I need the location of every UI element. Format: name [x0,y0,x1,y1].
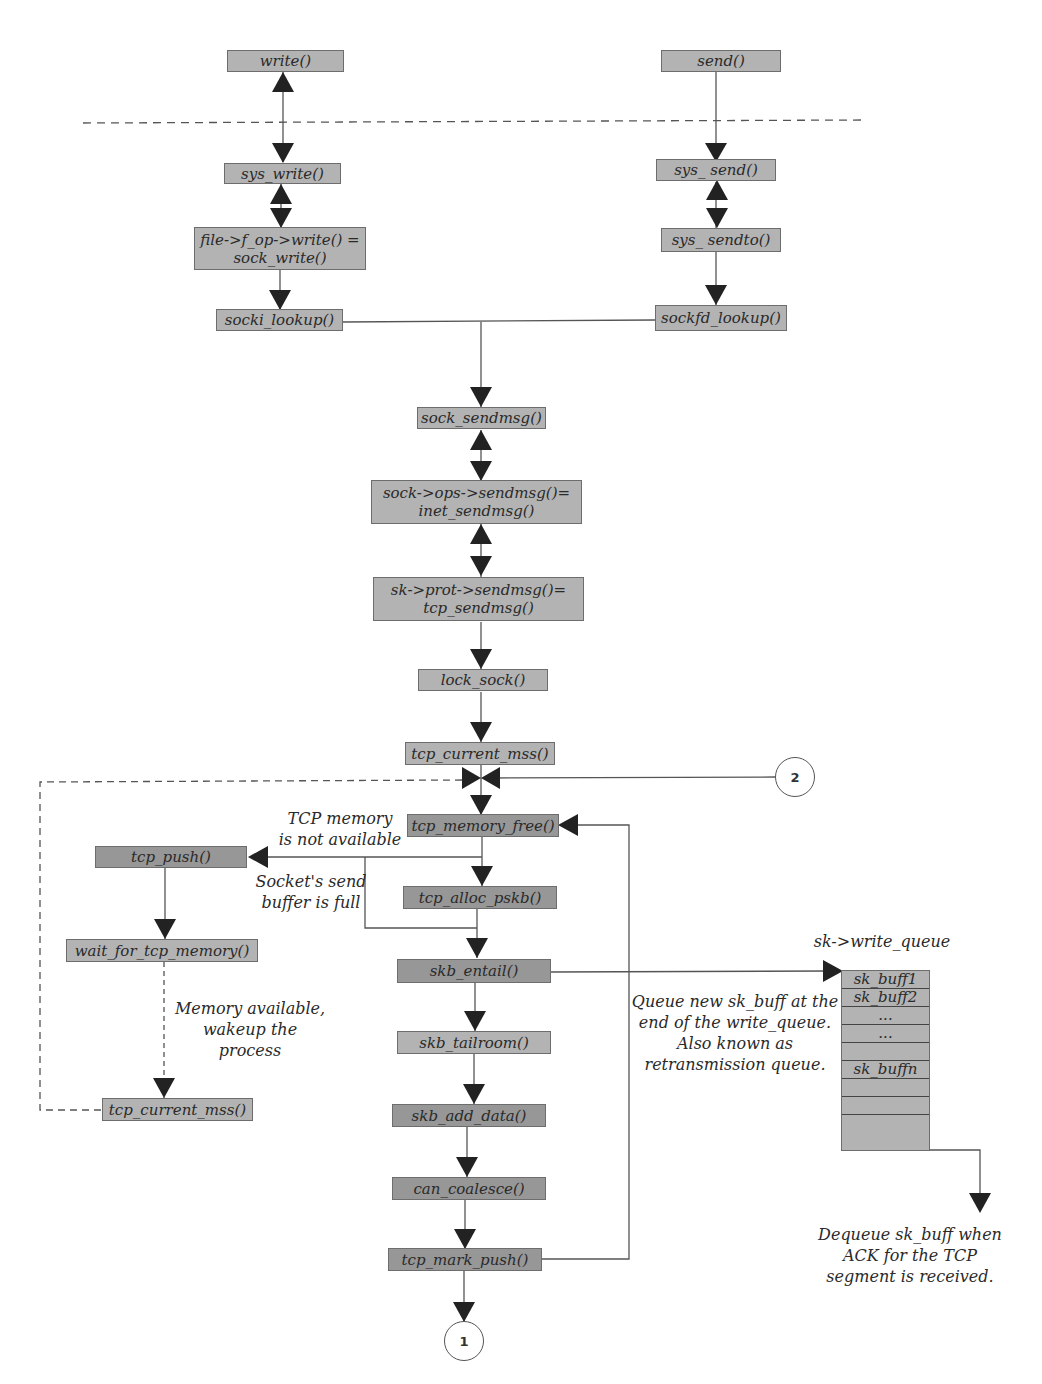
queue-row [842,1079,929,1097]
tcp-sendmsg-node: sk->prot->sendmsg()= tcp_sendmsg() [373,577,584,621]
sockfd-lookup-node: sockfd_lookup() [655,305,787,331]
connector-2: 2 [775,757,815,797]
memory-available-label: Memory available, wakeup the process [170,998,330,1061]
tcp-mark-push-node: tcp_mark_push() [388,1248,542,1271]
write-node: write() [227,50,344,72]
queue-note-label: Queue new sk_buff at the end of the writ… [630,991,840,1075]
queue-row [842,1115,929,1133]
sys-sendto-node: sys_ sendto() [661,228,781,252]
tcp-send-flow-diagram: write() send() sys_write() sys_ send() f… [0,0,1042,1384]
file-write-node: file->f_op->write() = sock_write() [194,227,366,270]
tcp-current-mss-node: tcp_current_mss() [405,742,555,765]
queue-row: sk_buffn [842,1061,929,1079]
socket-buffer-full-label: Socket's send buffer is full [246,871,376,913]
inet-sendmsg-node: sock->ops->sendmsg()= inet_sendmsg() [371,480,582,524]
skb-entail-node: skb_entail() [397,959,551,983]
tcp-memory-free-node: tcp_memory_free() [407,814,559,837]
sys-write-node: sys_write() [224,163,341,184]
skb-tailroom-node: skb_tailroom() [397,1031,551,1054]
write-queue-title: sk->write_queue [812,931,952,952]
tcp-current-mss-retry-node: tcp_current_mss() [102,1098,253,1121]
queue-row: sk_buff1 [842,971,929,989]
socki-lookup-node: socki_lookup() [216,309,343,331]
wait-for-tcp-memory-node: wait_for_tcp_memory() [66,939,258,962]
dequeue-note-label: Dequeue sk_buff when ACK for the TCP seg… [815,1224,1005,1287]
sock-sendmsg-node: sock_sendmsg() [417,407,546,429]
queue-row [842,1043,929,1061]
send-node: send() [661,50,781,72]
skb-add-data-node: skb_add_data() [392,1104,546,1127]
sys-send-node: sys_ send() [656,159,776,181]
tcp-push-node: tcp_push() [95,846,247,868]
connector-1: 1 [444,1321,484,1361]
tcp-memory-not-available-label: TCP memory is not available [270,808,410,850]
queue-row: ... [842,1025,929,1043]
can-coalesce-node: can_coalesce() [392,1177,546,1200]
tcp-alloc-pskb-node: tcp_alloc_pskb() [403,886,557,909]
queue-row: sk_buff2 [842,989,929,1007]
queue-row: ... [842,1007,929,1025]
write-queue: sk_buff1 sk_buff2 ... ... sk_buffn [841,970,930,1151]
queue-row [842,1097,929,1115]
lock-sock-node: lock_sock() [418,669,548,691]
